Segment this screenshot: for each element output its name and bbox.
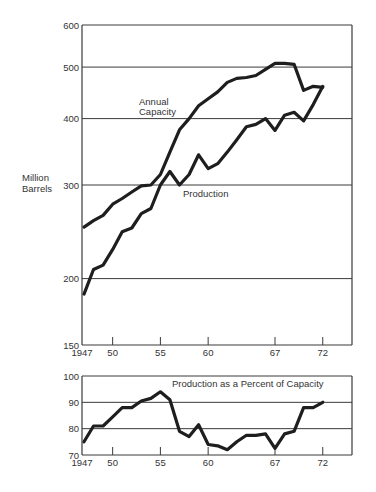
- x-tick-label: 50: [107, 457, 118, 468]
- x-tick-label: 1947: [71, 347, 92, 358]
- x-tick-label: 1947: [71, 457, 92, 468]
- capacity-production-chart: 15020030040050060019475055606772MillionB…: [22, 20, 352, 359]
- y-tick-label: 600: [63, 20, 79, 31]
- y-tick-label: 100: [63, 371, 79, 382]
- x-tick-label: 55: [155, 457, 166, 468]
- x-tick-label: 50: [107, 347, 118, 358]
- y-tick-label: 80: [68, 423, 79, 434]
- x-tick-label: 72: [317, 347, 328, 358]
- series-line-annual-capacity: [84, 63, 323, 227]
- x-tick-label: 60: [203, 457, 214, 468]
- chart-title: Production as a Percent of Capacity: [172, 378, 324, 389]
- y-tick-label: 300: [63, 180, 79, 191]
- series-label-line: Capacity: [139, 106, 176, 117]
- chart-canvas: 15020030040050060019475055606772MillionB…: [0, 0, 376, 492]
- series-line-production-as-a-percent-of-capacity: [84, 392, 323, 450]
- y-axis-title: MillionBarrels: [22, 172, 52, 194]
- y-tick-label: 90: [68, 397, 79, 408]
- x-tick-label: 60: [203, 347, 214, 358]
- x-tick-label: 55: [155, 347, 166, 358]
- y-axis-title-line: Barrels: [22, 183, 52, 194]
- y-axis-title-line: Million: [22, 172, 49, 183]
- y-tick-label: 500: [63, 62, 79, 73]
- x-tick-label: 67: [270, 347, 281, 358]
- x-tick-label: 67: [270, 457, 281, 468]
- y-tick-label: 200: [63, 273, 79, 284]
- y-tick-label: 400: [63, 113, 79, 124]
- percent-of-capacity-chart: 70809010019475055606772Production as a P…: [63, 371, 352, 469]
- x-tick-label: 72: [317, 457, 328, 468]
- series-label-production: Production: [183, 188, 228, 199]
- series-label-annual-capacity: AnnualCapacity: [139, 96, 176, 117]
